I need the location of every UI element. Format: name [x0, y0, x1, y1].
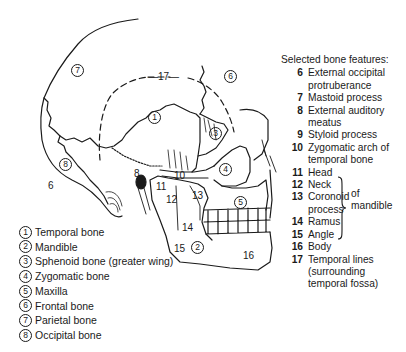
- legend-item-maxilla: 5Maxilla: [19, 284, 173, 299]
- legend-num: 8: [19, 329, 32, 342]
- label-mandible: 2: [191, 241, 204, 254]
- feature-label: External occipital protruberance: [308, 67, 406, 92]
- feature-17: —17—: [148, 71, 179, 83]
- zygomatic-arch: [160, 166, 214, 172]
- feature-num: 13: [281, 191, 308, 216]
- feature-10: 10: [174, 170, 185, 182]
- legend-label: Maxilla: [35, 285, 68, 297]
- feature-num: 6: [281, 67, 308, 92]
- legend-label: Frontal bone: [35, 300, 94, 312]
- label-maxilla: 5: [234, 196, 247, 209]
- squamosal-suture: [112, 148, 162, 166]
- temporal-lines: [188, 78, 234, 132]
- feature-6: 6: [48, 180, 54, 192]
- label-parietal: 7: [71, 64, 84, 77]
- legend-num: 1: [19, 226, 32, 239]
- mandible-bracket: [337, 176, 347, 240]
- label-temporal: 1: [148, 111, 161, 124]
- feature-num: 14: [281, 216, 308, 228]
- temporal-bone-outline: [60, 104, 200, 172]
- legend-num: 6: [19, 299, 32, 312]
- legend-label: Mandible: [35, 241, 78, 253]
- feature-num: 17: [281, 254, 308, 291]
- feature-num: 11: [281, 167, 308, 179]
- feature-item: 9Styloid process: [281, 129, 406, 141]
- legend-num: 3: [19, 255, 32, 268]
- legend-item-temporal: 1Temporal bone: [19, 225, 173, 240]
- of-mandible-note: of mandible: [351, 188, 401, 213]
- feature-item: 10Zygomatic arch of temporal bone: [281, 142, 406, 167]
- coronal-suture: [200, 66, 206, 114]
- legend-label: Zygomatic bone: [35, 270, 110, 282]
- label-sphenoid: 3: [209, 127, 222, 140]
- orbit: [240, 109, 268, 160]
- legend-num: 7: [19, 314, 32, 327]
- feature-item: 7Mastoid process: [281, 92, 406, 104]
- feature-label: Body: [308, 241, 406, 253]
- legend-item-frontal: 6Frontal bone: [19, 299, 173, 314]
- feature-label: External auditory meatus: [308, 105, 406, 130]
- feature-item: 8External auditory meatus: [281, 105, 406, 130]
- upper-teeth: [204, 208, 270, 222]
- label-frontal: 6: [224, 70, 237, 83]
- feature-num: 16: [281, 241, 308, 253]
- feature-15: 15: [174, 243, 185, 255]
- legend-label: Parietal bone: [35, 314, 97, 326]
- label-zygomatic: 4: [219, 163, 232, 176]
- feature-14: 14: [182, 222, 193, 234]
- legend-item-occipital: 8Occipital bone: [19, 328, 173, 343]
- feature-11: 11: [156, 181, 166, 193]
- feature-label: Styloid process: [308, 129, 406, 141]
- features-legend: Selected bone features: 6External occipi…: [281, 54, 406, 291]
- features-legend-title: Selected bone features:: [281, 54, 406, 66]
- feature-num: 12: [281, 179, 308, 191]
- feature-item: 17Temporal lines (surrounding temporal f…: [281, 254, 406, 291]
- feature-label: Temporal lines (surrounding temporal fos…: [308, 254, 406, 291]
- legend-num: 2: [19, 240, 32, 253]
- feature-16: 16: [243, 250, 254, 262]
- legend-label: Occipital bone: [35, 329, 102, 341]
- feature-8: 8: [134, 168, 140, 180]
- legend-label: Sphenoid bone (greater wing): [35, 255, 173, 267]
- feature-num: 9: [281, 129, 308, 141]
- legend-num: 5: [19, 285, 32, 298]
- legend-item-parietal: 7Parietal bone: [19, 313, 173, 328]
- legend-item-zygomatic: 4Zygomatic bone: [19, 269, 173, 284]
- legend-item-sphenoid: 3Sphenoid bone (greater wing): [19, 254, 173, 269]
- legend-item-mandible: 2Mandible: [19, 240, 173, 255]
- feature-item: 6External occipital protruberance: [281, 67, 406, 92]
- feature-label: Mastoid process: [308, 92, 406, 104]
- feature-num: 8: [281, 105, 308, 130]
- styloid-process: [138, 188, 150, 214]
- feature-12: 12: [166, 194, 177, 206]
- feature-num: 10: [281, 142, 308, 167]
- bones-legend: 1Temporal bone 2Mandible 3Sphenoid bone …: [19, 225, 173, 343]
- cranium-outline: [41, 19, 138, 217]
- feature-label: Zygomatic arch of temporal bone: [308, 142, 406, 167]
- feature-item: 16Body: [281, 241, 406, 253]
- mastoid-process: [106, 192, 122, 212]
- feature-num: 15: [281, 229, 308, 241]
- legend-num: 4: [19, 270, 32, 283]
- feature-num: 7: [281, 92, 308, 104]
- feature-13: 13: [192, 190, 203, 202]
- label-occipital: 8: [59, 158, 72, 171]
- legend-label: Temporal bone: [35, 226, 104, 238]
